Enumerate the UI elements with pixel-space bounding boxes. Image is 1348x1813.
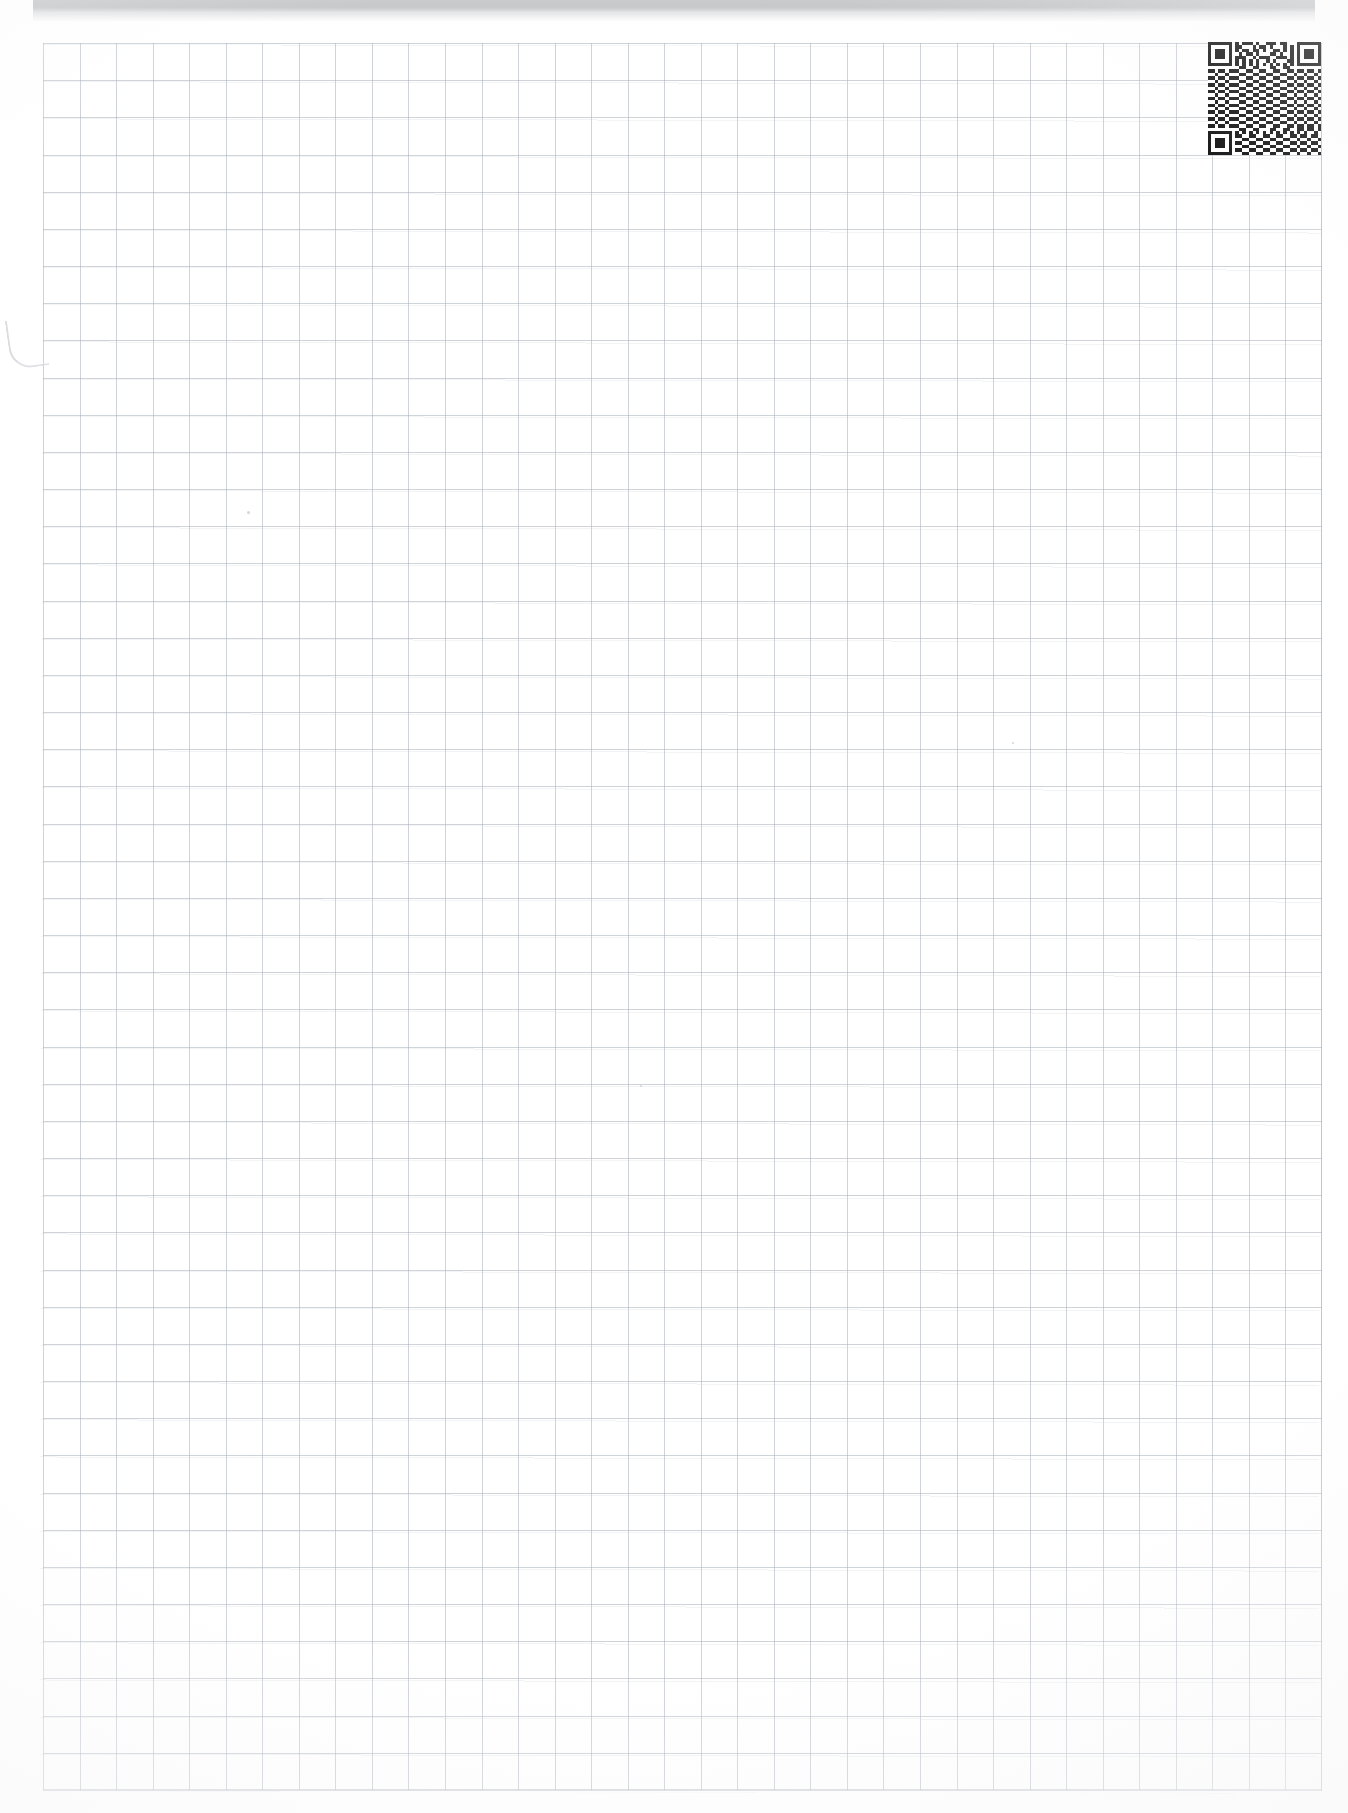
grid-right-rule — [1321, 43, 1322, 1791]
scanner-band-faint-text — [700, 0, 1030, 7]
grid-bottom-rule — [43, 1790, 1322, 1791]
qr-code[interactable] — [1208, 42, 1321, 155]
scanner-band-fade — [33, 13, 1315, 22]
graph-paper-grid — [43, 43, 1322, 1790]
qr-code-svg — [1208, 42, 1321, 155]
scanner-edge-band — [33, 0, 1315, 13]
scanned-page — [0, 0, 1348, 1813]
